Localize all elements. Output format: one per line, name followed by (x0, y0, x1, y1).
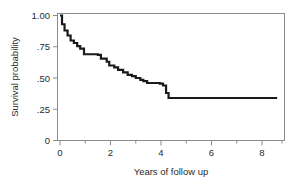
x-tick-label: 2 (108, 147, 113, 158)
y-axis-ticks (53, 16, 58, 141)
x-axis-ticks (60, 141, 262, 146)
x-tick-label: 8 (259, 147, 264, 158)
x-axis-title: Years of follow up (134, 166, 209, 177)
survival-step-line (60, 16, 277, 99)
x-tick-label: 6 (209, 147, 214, 158)
y-axis-title: Survival probability (9, 37, 20, 117)
y-tick-label: .75 (37, 41, 50, 52)
x-tick-label: 0 (57, 147, 62, 158)
x-tick-label: 4 (158, 147, 163, 158)
y-axis-tick-labels: 1.00 .75 .50 .25 0 (32, 10, 51, 146)
y-tick-label: 0 (45, 135, 50, 146)
x-axis-tick-labels: 0 2 4 6 8 (57, 147, 264, 158)
plot-area: 1.00 .75 .50 .25 0 0 2 4 6 8 (0, 0, 297, 184)
y-tick-label: 1.00 (32, 10, 51, 21)
survival-curve-figure: 1.00 .75 .50 .25 0 0 2 4 6 8 (0, 0, 297, 184)
y-tick-label: .25 (37, 104, 50, 115)
y-tick-label: .50 (37, 73, 50, 84)
plot-frame (58, 14, 285, 141)
